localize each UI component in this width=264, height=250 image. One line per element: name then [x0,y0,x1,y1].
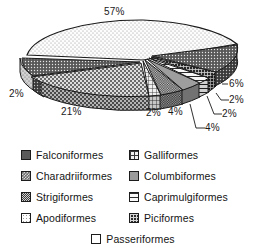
leader-caprimulgiformes [190,104,205,128]
legend-label-charadriiformes: Charadriiformes [36,170,112,182]
legend-swatch-strigiformes [21,192,31,202]
legend-swatch-galliformes [129,150,139,160]
data-label-caprimulgiformes: 4% [205,122,220,133]
legend-swatch-passeriformes [91,234,101,244]
chart-legend: Falconiformes Galliformes Charadriiforme… [0,146,264,247]
legend-label-galliformes: Galliformes [144,149,198,161]
legend-swatch-piciformes [129,213,139,223]
legend-item-galliformes[interactable]: Galliformes [129,146,245,163]
legend-item-columbiformes[interactable]: Columbiformes [129,167,245,184]
data-label-piciformes: 2% [222,108,237,119]
legend-swatch-columbiformes [129,171,139,181]
data-label-apodiformes: 6% [229,78,244,89]
legend-item-piciformes[interactable]: Piciformes [129,209,245,226]
legend-label-passeriformes: Passeriformes [106,233,174,245]
legend-label-caprimulgiformes: Caprimulgiformes [144,191,228,203]
legend-item-charadriiformes[interactable]: Charadriiformes [21,167,121,184]
legend-swatch-caprimulgiformes [129,192,139,202]
legend-label-piciformes: Piciformes [144,212,194,224]
legend-swatch-charadriiformes [21,171,31,181]
legend-item-falconiformes[interactable]: Falconiformes [21,146,121,163]
data-label-galliformes: 2% [146,107,161,118]
legend-item-caprimulgiformes[interactable]: Caprimulgiformes [129,188,245,205]
legend-item-apodiformes[interactable]: Apodiformes [21,209,121,226]
legend-swatch-apodiformes [21,213,31,223]
data-label-passeriformes: 57% [104,6,125,17]
legend-swatch-falconiformes [21,150,31,160]
legend-item-passeriformes[interactable]: Passeriformes [21,230,245,247]
leader-strigiformes [216,93,229,100]
legend-label-columbiformes: Columbiformes [144,170,216,182]
data-label-falconiformes: 2% [9,88,24,99]
legend-label-strigiformes: Strigiformes [36,191,93,203]
pie-chart: 57% 2% 21% 2% 4% 4% 2% 2% 6% Falconiform… [0,0,264,250]
legend-label-apodiformes: Apodiformes [36,212,96,224]
data-label-columbiformes: 4% [168,106,183,117]
pie-chart-svg [0,0,264,146]
data-label-strigiformes: 2% [229,94,244,105]
data-label-charadriiformes: 21% [61,106,82,117]
legend-item-strigiformes[interactable]: Strigiformes [21,188,121,205]
legend-label-falconiformes: Falconiformes [36,149,103,161]
